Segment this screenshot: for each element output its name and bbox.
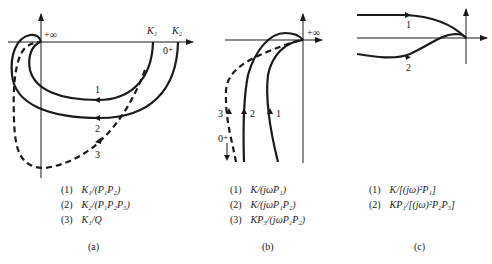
panel-b-plot: +∞ 1 2 3 0⁺	[218, 14, 322, 163]
panel-a-caption: (a)	[88, 241, 99, 252]
legend-num: (3)	[61, 212, 79, 227]
panel-b-infinity-label: +∞	[307, 27, 320, 38]
legend-item: (3) K₁/Q	[61, 212, 130, 227]
legend-item: (1) K₁/(P₁P₂)	[61, 182, 130, 197]
legend-item: (2) KP₁/[(jω)²P₂P₃]	[369, 197, 455, 212]
panel-a-curve-label-2: 2	[95, 123, 100, 134]
legend-num: (1)	[230, 182, 248, 197]
panel-a-legend: (1) K₁/(P₁P₂) (2) K₂/(P₁P₂P₃) (3) K₁/Q	[61, 182, 130, 227]
panel-a-curve-label-1: 1	[95, 84, 100, 95]
legend-expr: KP₃/(jωP₁P₂)	[251, 214, 306, 225]
panel-c-caption: (c)	[414, 241, 425, 252]
panel-a-arrow-2	[94, 115, 100, 121]
legend-expr: K₂/(P₁P₂P₃)	[82, 199, 130, 210]
legend-expr: K₁/Q	[82, 214, 102, 225]
legend-num: (1)	[369, 182, 387, 197]
panel-a-curve-label-3: 3	[95, 149, 100, 160]
legend-item: (2) K/(jωP₁P₂)	[230, 197, 305, 212]
panel-b-caption: (b)	[262, 241, 274, 252]
panel-c-curve-label-1: 1	[406, 19, 411, 30]
panel-b-curve-1	[267, 40, 303, 162]
panel-a-zero-label: 0⁺	[163, 45, 173, 56]
panel-b-legend: (1) K/(jωP₁) (2) K/(jωP₁P₂) (3) KP₃/(jωP…	[230, 182, 305, 227]
panel-b-zero-label: 0⁺	[218, 133, 228, 144]
legend-expr: K/(jωP₁P₂)	[251, 199, 296, 210]
panel-a-plot: +∞ K₁ K₂ 0⁺ 1 2 3	[8, 14, 193, 178]
legend-expr: K/[(jω)²P₁]	[390, 184, 436, 195]
panel-c-plot: 1 2	[357, 9, 487, 73]
legend-item: (1) K/[(jω)²P₁]	[369, 182, 455, 197]
legend-num: (2)	[230, 197, 248, 212]
panel-a-curve-1	[29, 42, 153, 100]
legend-expr: KP₁/[(jω)²P₂P₃]	[390, 199, 455, 210]
panel-a-k2-label: K₂	[171, 25, 183, 36]
panel-b-arrow-2	[241, 108, 247, 114]
panel-a-k1-label: K₁	[146, 25, 157, 36]
panel-a-arrow-1	[94, 97, 100, 103]
panel-b-curve-label-1: 1	[276, 108, 281, 119]
panel-b-curve-label-3: 3	[218, 108, 223, 119]
panel-c-curve-label-2: 2	[406, 62, 411, 73]
legend-num: (1)	[61, 182, 79, 197]
legend-item: (3) KP₃/(jωP₁P₂)	[230, 212, 305, 227]
legend-num: (2)	[369, 197, 387, 212]
panel-b-curve-3	[226, 40, 303, 162]
legend-num: (3)	[230, 212, 248, 227]
legend-item: (1) K/(jωP₁)	[230, 182, 305, 197]
legend-num: (2)	[61, 197, 79, 212]
panel-c-legend: (1) K/[(jω)²P₁] (2) KP₁/[(jω)²P₂P₃]	[369, 182, 455, 212]
panel-b-curve-label-2: 2	[250, 108, 255, 119]
legend-expr: K₁/(P₁P₂)	[82, 184, 121, 195]
legend-expr: K/(jωP₁)	[251, 184, 287, 195]
panel-a-arrow-3	[95, 137, 102, 144]
legend-item: (2) K₂/(P₁P₂P₃)	[61, 197, 130, 212]
panel-b-zero-arrow-icon	[224, 155, 230, 161]
panel-a-infinity-label: +∞	[44, 29, 57, 40]
panel-c-arrow-1	[405, 12, 411, 18]
